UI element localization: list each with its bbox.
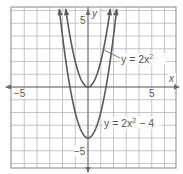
curve-arrow-icon [107,8,112,15]
curve-arrow-icon [64,8,69,15]
y-axis-down-arrow-icon [86,167,91,173]
x-tick-5: 5 [149,88,155,99]
y-axis-up-arrow-icon [86,9,91,15]
graph: −5 5 5 −5 y x y = 2x2 y = 2x2 − 4 [0,0,183,174]
y-tick-neg5: −5 [74,146,86,157]
y-axis-label: y [91,8,98,19]
x-axis-right-arrow-icon [174,85,180,90]
curve1-label: y = 2x2 [121,53,153,65]
x-axis-label: x [168,73,175,84]
curve2-label: y = 2x2 − 4 [104,117,154,129]
x-axis-left-arrow-icon [5,85,11,90]
x-tick-neg5: −5 [14,88,26,99]
y-tick-5: 5 [80,15,86,26]
y-axis [86,7,91,173]
